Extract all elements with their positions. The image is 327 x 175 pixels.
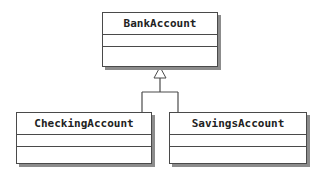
class-name-savings-account: SavingsAccount [170, 113, 306, 135]
attributes-compartment-checking-account [17, 135, 151, 147]
attributes-compartment-savings-account [170, 135, 306, 147]
class-bank-account[interactable]: BankAccount [102, 12, 218, 67]
attributes-compartment-bank-account [103, 35, 217, 47]
operations-compartment-savings-account [170, 147, 306, 163]
class-checking-account[interactable]: CheckingAccount [16, 112, 152, 164]
operations-compartment-checking-account [17, 147, 151, 163]
generalization-arrowhead-icon [154, 67, 166, 78]
class-name-checking-account: CheckingAccount [17, 113, 151, 135]
class-name-bank-account: BankAccount [103, 13, 217, 35]
class-savings-account[interactable]: SavingsAccount [169, 112, 307, 164]
operations-compartment-bank-account [103, 47, 217, 66]
